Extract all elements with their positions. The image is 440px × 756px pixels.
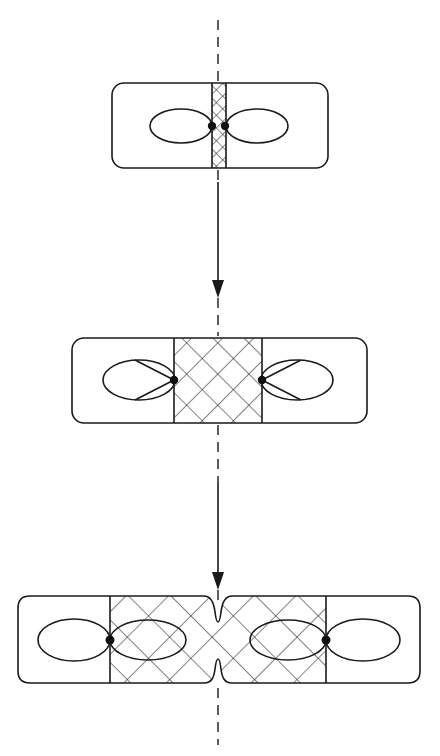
stage-3-cell xyxy=(18,596,420,683)
arrow-2-down-icon xyxy=(212,482,224,590)
dot-right xyxy=(221,122,229,130)
lobe-left xyxy=(150,109,212,143)
lobe-outer-left xyxy=(38,619,110,661)
lobe-right xyxy=(226,109,288,143)
dot-right xyxy=(258,376,266,384)
dot-left xyxy=(170,376,178,384)
dot-left xyxy=(106,636,115,645)
diagram-canvas: Three-stage schematic of a rectangular c… xyxy=(0,0,440,756)
dot-left xyxy=(208,122,216,130)
stage-2-cell xyxy=(72,338,367,423)
arrow-1-down-icon xyxy=(212,182,224,298)
lobe-left xyxy=(103,360,175,400)
stage-1-cell xyxy=(112,83,328,168)
lobe-right xyxy=(261,360,333,400)
dot-right xyxy=(322,636,331,645)
lobe-outer-right xyxy=(326,619,400,661)
